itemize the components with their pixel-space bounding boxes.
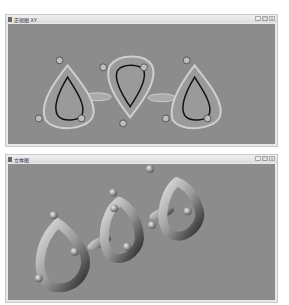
front-view-canvas[interactable] <box>8 24 275 144</box>
minimize-button[interactable]: _ <box>255 156 261 161</box>
close-button[interactable]: × <box>269 156 275 161</box>
front-view-model <box>8 24 275 144</box>
maximize-button[interactable]: □ <box>262 16 268 21</box>
maximize-button[interactable]: □ <box>262 156 268 161</box>
front-view-title: 正视图 XY <box>14 16 37 23</box>
window-controls: _ □ × <box>255 16 275 21</box>
perspective-view-model <box>8 164 275 300</box>
perspective-view-window[interactable]: 立体图 _ □ × <box>5 154 278 303</box>
perspective-view-titlebar[interactable]: 立体图 _ □ × <box>6 155 277 163</box>
window-controls: _ □ × <box>255 156 275 161</box>
perspective-view-canvas[interactable] <box>8 164 275 300</box>
window-app-icon <box>8 157 12 162</box>
close-button[interactable]: × <box>269 16 275 21</box>
front-view-titlebar[interactable]: 正视图 XY _ □ × <box>6 15 277 23</box>
front-view-window[interactable]: 正视图 XY _ □ × <box>5 14 278 147</box>
perspective-view-title: 立体图 <box>14 156 29 163</box>
minimize-button[interactable]: _ <box>255 16 261 21</box>
window-app-icon <box>8 17 12 22</box>
